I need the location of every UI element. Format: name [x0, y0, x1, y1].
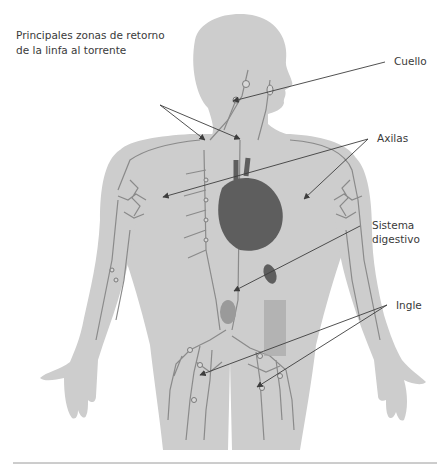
label-sistema-line-1: Sistema	[372, 218, 420, 232]
label-sistema-digestivo: Sistema digestivo	[372, 218, 420, 246]
title-line-2: de la linfa al torrente	[16, 43, 165, 58]
diagram-title: Principales zonas de retorno de la linfa…	[16, 28, 165, 58]
cisterna-chyli	[220, 300, 236, 324]
label-ingle: Ingle	[396, 298, 422, 312]
label-cuello: Cuello	[394, 54, 427, 68]
label-axilas: Axilas	[377, 131, 408, 145]
intestine	[264, 300, 286, 356]
label-sistema-line-2: digestivo	[372, 232, 420, 246]
title-line-1: Principales zonas de retorno	[16, 28, 165, 43]
lymphatic-diagram: Principales zonas de retorno de la linfa…	[0, 0, 441, 471]
